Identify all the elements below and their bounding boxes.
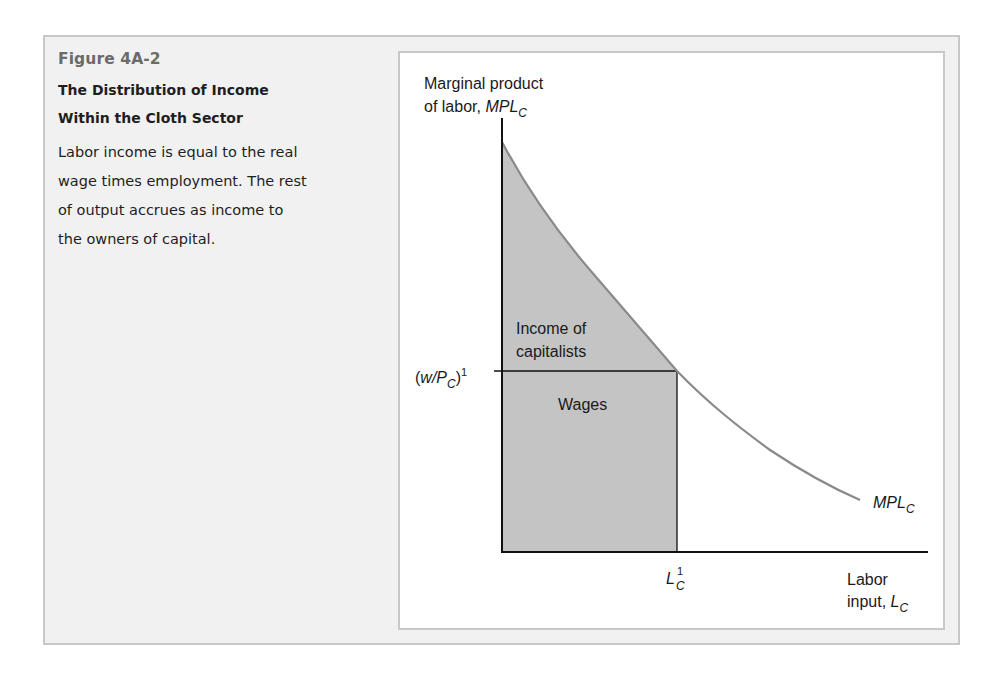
labor-tick-sub: C bbox=[676, 579, 685, 593]
capitalists-region-label-line2: capitalists bbox=[516, 343, 586, 360]
x-axis-label-line2: input, LC bbox=[847, 593, 909, 615]
mpl-chart: Marginal product of labor, MPLC Income o… bbox=[0, 0, 998, 681]
labor-tick-label: L bbox=[666, 570, 675, 587]
y-axis-label-line1: Marginal product bbox=[424, 75, 544, 92]
x-axis-label-line1: Labor bbox=[847, 571, 889, 588]
wages-region-label: Wages bbox=[558, 396, 607, 413]
mpl-curve-label: MPLC bbox=[873, 494, 915, 516]
y-axis-label-line2: of labor, MPLC bbox=[424, 98, 527, 120]
capitalists-region-label-line1: Income of bbox=[516, 320, 587, 337]
wage-tick-label: (w/PC)1 bbox=[415, 366, 467, 391]
labor-tick-sup: 1 bbox=[677, 565, 683, 577]
